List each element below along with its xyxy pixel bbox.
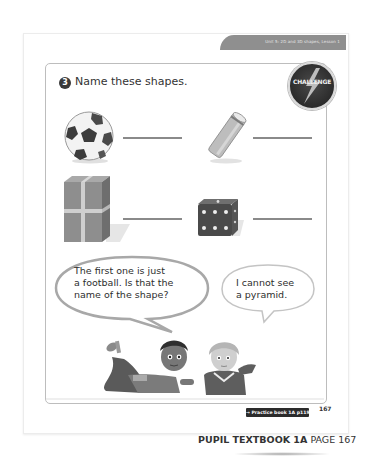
boy-character-icon: [104, 341, 194, 394]
speech-bubble-2-text: I cannot see a pyramid.: [236, 277, 294, 301]
cuboid-box-icon: [62, 176, 134, 246]
page-label: PAGE 167: [310, 434, 356, 445]
answer-line-4[interactable]: [253, 218, 312, 220]
page-number: 167: [319, 405, 332, 412]
football-icon: [62, 110, 116, 164]
book-caption: PUPIL TEXTBOOK 1A PAGE 167: [198, 434, 356, 445]
question-number-badge: 3: [59, 77, 71, 89]
answer-line-3[interactable]: [123, 218, 182, 220]
lesson-title: Unit 5: 2D and 3D shapes, Lesson 1: [265, 39, 340, 44]
lesson-header-band: Unit 5: 2D and 3D shapes, Lesson 1: [220, 35, 346, 50]
cube-dice-icon: [196, 198, 244, 238]
challenge-label: CHALLENGE: [290, 78, 334, 85]
caption-shadow: [232, 452, 332, 456]
answer-line-1[interactable]: [123, 137, 182, 139]
book-label: PUPIL TEXTBOOK 1A: [198, 434, 307, 445]
speech-bubble-1-text: The first one is just a football. Is tha…: [74, 265, 173, 301]
girl-character-icon: [204, 342, 256, 395]
question-prompt: Name these shapes.: [75, 75, 187, 88]
ground-line: [46, 398, 324, 400]
cylinder-tube-icon: [202, 108, 252, 164]
lightning-bolt-icon: [300, 68, 324, 104]
answer-line-2[interactable]: [253, 137, 312, 139]
practice-book-link[interactable]: → Practice book 1A p119: [246, 408, 309, 417]
challenge-badge: CHALLENGE: [288, 62, 336, 110]
children-illustration: [88, 335, 268, 400]
